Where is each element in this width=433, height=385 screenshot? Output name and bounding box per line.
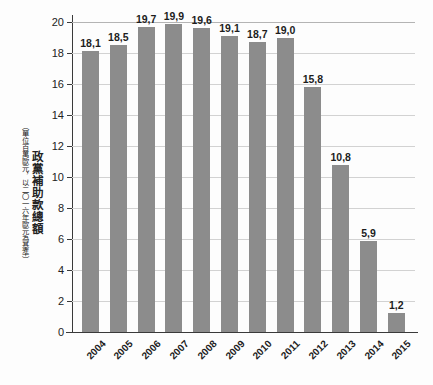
y-axis-tick-label: 2 (58, 295, 64, 307)
y-axis-tick (67, 208, 72, 209)
y-axis-tick-label: 4 (58, 264, 64, 276)
y-axis-tick-label: 14 (52, 109, 64, 121)
y-axis-tick-label: 6 (58, 233, 64, 245)
bar-value-label: 18,5 (108, 31, 128, 43)
bar[interactable]: 19,1 (221, 36, 238, 332)
plot-area: 02468101214161820 18,118,519,719,919,619… (72, 22, 415, 332)
bar-value-label: 18,7 (247, 28, 267, 40)
y-axis-tick-label: 12 (52, 140, 64, 152)
x-axis-tick-label: 2011 (279, 338, 302, 361)
x-axis-tick-label: 2009 (223, 338, 247, 362)
bar[interactable]: 18,1 (82, 51, 99, 332)
bar[interactable]: 19,7 (138, 27, 155, 332)
x-axis-tick-label: 2005 (112, 338, 136, 362)
bar-value-label: 19,0 (275, 24, 295, 36)
bar-chart: 政黨補助款總額 （單位百萬歐元，以二〇一六年歐元為基準） 02468101214… (0, 0, 433, 385)
bar-value-label: 19,6 (191, 14, 211, 26)
x-axis-tick-label: 2014 (362, 338, 386, 362)
x-axis-tick-label: 2008 (195, 338, 219, 362)
bar[interactable]: 18,5 (110, 45, 127, 332)
bar-value-label: 19,7 (136, 13, 156, 25)
y-axis-tick-label: 0 (58, 326, 64, 338)
y-axis-tick-label: 20 (52, 16, 64, 28)
bar[interactable]: 10,8 (332, 165, 349, 332)
y-axis-tick (67, 146, 72, 147)
bar-value-label: 19,9 (164, 10, 184, 22)
y-axis-title-group: 政黨補助款總額 （單位百萬歐元，以二〇一六年歐元為基準） (10, 0, 54, 385)
bar-value-label: 15,8 (303, 73, 323, 85)
bar[interactable]: 19,9 (165, 24, 182, 332)
y-axis-title-note: （單位百萬歐元，以二〇一六年歐元為基準） (22, 123, 29, 263)
bar[interactable]: 19,6 (193, 28, 210, 332)
y-axis-tick-label: 18 (52, 47, 64, 59)
bar[interactable]: 18,7 (249, 42, 266, 332)
x-axis-line (66, 332, 418, 333)
bar-value-label: 1,2 (389, 299, 404, 311)
bar-value-label: 19,1 (219, 22, 239, 34)
y-axis-tick (67, 84, 72, 85)
gridline (72, 22, 415, 23)
y-axis-tick (67, 270, 72, 271)
x-axis-tick-label: 2012 (306, 338, 330, 362)
y-axis-tick (67, 301, 72, 302)
y-axis-tick (67, 53, 72, 54)
y-axis-line (72, 15, 73, 333)
bar-value-label: 5,9 (361, 227, 376, 239)
bar-value-label: 10,8 (330, 151, 350, 163)
y-axis-tick (67, 177, 72, 178)
x-axis-tick-label: 2007 (167, 338, 191, 362)
bar[interactable]: 1,2 (388, 313, 405, 332)
y-axis-tick (67, 239, 72, 240)
y-axis-tick-label: 10 (52, 171, 64, 183)
x-axis-tick-label: 2015 (390, 338, 414, 362)
y-axis-tick-label: 8 (58, 202, 64, 214)
bar-value-label: 18,1 (80, 37, 100, 49)
x-axis-tick-label: 2004 (84, 338, 108, 362)
bar[interactable]: 15,8 (304, 87, 321, 332)
bar[interactable]: 19,0 (277, 38, 294, 333)
x-axis-tick-label: 2013 (334, 338, 358, 362)
x-axis-tick-label: 2010 (251, 338, 275, 362)
y-axis-tick (67, 22, 72, 23)
y-axis-tick-label: 16 (52, 78, 64, 90)
x-axis-tick-label: 2006 (139, 338, 163, 362)
y-axis-tick (67, 332, 72, 333)
y-axis-tick (67, 115, 72, 116)
bar[interactable]: 5,9 (360, 241, 377, 332)
y-axis-title: 政黨補助款總額 (30, 151, 42, 235)
